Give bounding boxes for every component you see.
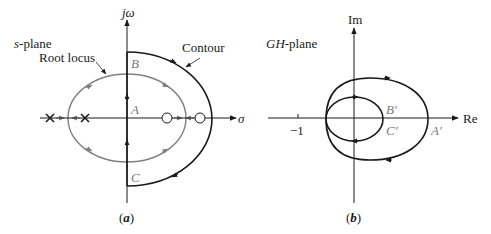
zero-icon — [162, 113, 172, 123]
point-c-prime-label: C′ — [386, 123, 398, 138]
zero-icon — [195, 113, 205, 123]
figure-root: jω σ s-plane Root locus Contour A B C (a… — [0, 0, 491, 234]
point-a-prime-label: A′ — [430, 123, 442, 138]
contour-pointer — [186, 58, 200, 67]
minus-one-label: −1 — [290, 123, 304, 138]
contour-label: Contour — [182, 40, 225, 55]
im-axis-label: Im — [348, 12, 362, 27]
jw-axis-label: jω — [120, 5, 135, 20]
point-b-label: B — [131, 56, 139, 71]
point-b-prime-label: B′ — [386, 102, 397, 117]
root-locus-pointer — [96, 62, 106, 74]
panel-b-gh-plane: Im Re GH-plane −1 B′ C′ A′ (b) — [266, 12, 478, 225]
outer-nyquist-loop — [326, 78, 428, 160]
re-axis-label: Re — [463, 111, 478, 126]
root-locus-label: Root locus — [39, 50, 95, 65]
diagram-canvas: jω σ s-plane Root locus Contour A B C (a… — [0, 0, 491, 234]
sigma-axis-label: σ — [238, 111, 245, 126]
panel-a-s-plane: jω σ s-plane Root locus Contour A B C (a… — [14, 5, 245, 225]
caption-b: (b) — [346, 210, 361, 225]
caption-a: (a) — [119, 210, 134, 225]
point-a-label: A — [130, 102, 139, 117]
point-c-label: C — [131, 170, 140, 185]
s-plane-label: s-plane — [14, 36, 52, 51]
gh-plane-label: GH-plane — [266, 36, 317, 51]
